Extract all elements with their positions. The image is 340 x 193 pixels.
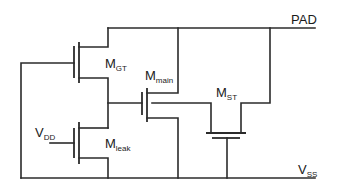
mleak-label: Mleak	[105, 136, 132, 153]
vdd-label: VDD	[35, 125, 55, 142]
mgt-label: MGT	[105, 56, 127, 73]
mgt-source-wire	[79, 78, 108, 128]
mmain-label: Mmain	[145, 68, 173, 85]
vss-label: VSS	[298, 162, 317, 179]
mmain-source-wire	[147, 118, 178, 178]
mleak-source-wire	[79, 158, 108, 178]
transistor-m-main	[142, 28, 211, 178]
transistor-m-st	[206, 28, 270, 178]
transistor-m-leak	[50, 122, 108, 178]
pad-label: PAD	[291, 12, 317, 27]
transistor-m-gt	[74, 28, 108, 128]
circuit-schematic: PAD VSS VDD MGT Mmain Mleak MST	[0, 0, 340, 193]
mst-drain-wire	[241, 28, 270, 133]
mst-label: MST	[216, 85, 237, 102]
mgt-drain-wire	[79, 28, 108, 47]
mgt-gate-wire	[21, 63, 74, 178]
